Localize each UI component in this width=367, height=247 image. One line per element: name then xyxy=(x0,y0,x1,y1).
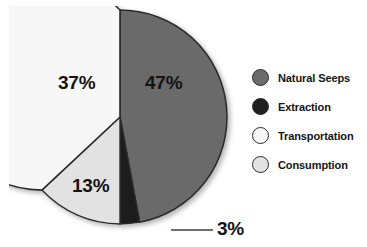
pie-slice-natural-seeps[interactable] xyxy=(120,10,227,222)
legend-swatch-icon-transportation xyxy=(252,127,269,144)
callout-leader-line xyxy=(171,229,213,231)
pie-chart-figure: 47% 37% 13% 3% Natural Seeps Extraction … xyxy=(0,0,367,247)
slice-label-transportation: 37% xyxy=(58,72,95,94)
legend-label-natural-seeps: Natural Seeps xyxy=(278,72,350,84)
legend-item-extraction[interactable]: Extraction xyxy=(252,97,367,116)
slice-label-extraction: 3% xyxy=(217,218,244,240)
legend-label-extraction: Extraction xyxy=(278,101,331,113)
slice-callout-extraction: 3% xyxy=(171,218,291,244)
legend-swatch-icon-extraction xyxy=(252,98,269,115)
slice-label-natural-seeps: 47% xyxy=(145,72,182,94)
legend-item-consumption[interactable]: Consumption xyxy=(252,155,367,174)
legend-swatch-icon-natural-seeps xyxy=(252,69,269,86)
slice-label-consumption: 13% xyxy=(72,175,109,197)
chart-legend: Natural Seeps Extraction Transportation … xyxy=(252,68,367,184)
pie-slices-group xyxy=(9,6,227,224)
legend-label-transportation: Transportation xyxy=(278,130,354,142)
legend-swatch-icon-consumption xyxy=(252,156,269,173)
legend-item-transportation[interactable]: Transportation xyxy=(252,126,367,145)
pie-chart-graphic xyxy=(9,6,235,232)
legend-item-natural-seeps[interactable]: Natural Seeps xyxy=(252,68,367,87)
pie-svg xyxy=(9,6,235,232)
legend-label-consumption: Consumption xyxy=(278,159,348,171)
